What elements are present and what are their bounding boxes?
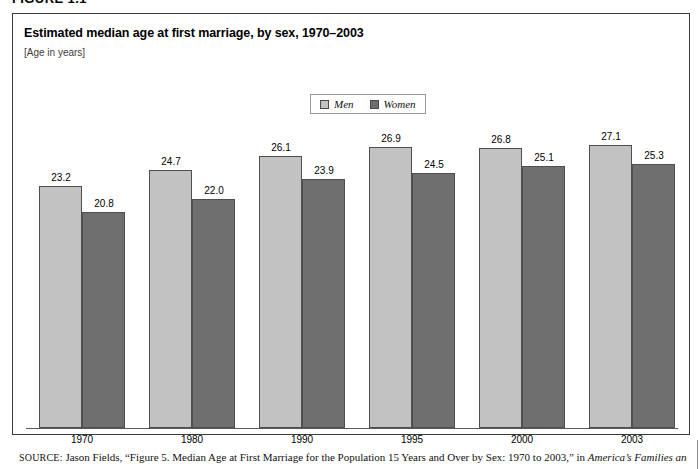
- legend-item-women: Women: [370, 98, 416, 110]
- bar-value-men-1970: 23.2: [38, 172, 84, 183]
- x-axis-label-2000: 2000: [479, 434, 565, 445]
- source-publication-title: America’s Families and: [588, 451, 687, 463]
- bar-value-women-2003: 25.3: [631, 150, 677, 161]
- bar-value-women-2000: 25.1: [521, 152, 567, 163]
- bar-value-women-1995: 24.5: [411, 159, 457, 170]
- legend-label-women: Women: [384, 98, 416, 110]
- x-axis-label-1995: 1995: [369, 434, 455, 445]
- chart-title: Estimated median age at first marriage, …: [24, 26, 364, 40]
- bar-value-men-2003: 27.1: [588, 131, 634, 142]
- bar-value-men-1990: 26.1: [258, 142, 304, 153]
- bar-group-1995: 26.924.5: [369, 114, 455, 428]
- source-note: SOURCE: Jason Fields, “Figure 5. Median …: [19, 451, 687, 464]
- legend-swatch-women: [370, 100, 379, 109]
- bar-men-1995[interactable]: [369, 147, 412, 428]
- chart-subtitle: [Age in years]: [24, 47, 85, 58]
- bar-value-women-1970: 20.8: [81, 198, 127, 209]
- bar-women-1970[interactable]: [82, 212, 125, 428]
- bar-women-1995[interactable]: [412, 173, 455, 428]
- bar-value-women-1980: 22.0: [191, 185, 237, 196]
- legend-swatch-men: [320, 100, 329, 109]
- bar-women-2000[interactable]: [522, 166, 565, 428]
- bar-group-2000: 26.825.1: [479, 114, 565, 428]
- bar-men-2000[interactable]: [479, 148, 522, 428]
- x-axis-label-1980: 1980: [149, 434, 235, 445]
- bar-group-1990: 26.123.9: [259, 114, 345, 428]
- legend-item-men: Men: [320, 98, 354, 110]
- bar-value-men-1980: 24.7: [148, 156, 194, 167]
- source-body: Jason Fields, “Figure 5. Median Age at F…: [63, 451, 588, 463]
- plot-area: 23.220.824.722.026.123.926.924.526.825.1…: [26, 114, 678, 429]
- figure-box: Estimated median age at first marriage, …: [12, 13, 690, 435]
- source-prefix: SOURCE:: [19, 452, 63, 463]
- x-axis-label-2003: 2003: [589, 434, 675, 445]
- page-edge-rule: [697, 440, 698, 469]
- bar-women-1980[interactable]: [192, 199, 235, 428]
- bar-women-1990[interactable]: [302, 179, 345, 428]
- figure-number-label: FIGURE 1.1: [12, 0, 87, 5]
- x-axis-label-1970: 1970: [39, 434, 125, 445]
- bar-value-men-2000: 26.8: [478, 134, 524, 145]
- legend-label-men: Men: [334, 98, 354, 110]
- bar-men-1980[interactable]: [149, 170, 192, 428]
- bar-men-1990[interactable]: [259, 156, 302, 428]
- bar-group-1980: 24.722.0: [149, 114, 235, 428]
- bar-value-women-1990: 23.9: [301, 165, 347, 176]
- bar-group-1970: 23.220.8: [39, 114, 125, 428]
- bar-value-men-1995: 26.9: [368, 133, 414, 144]
- bar-group-2003: 27.125.3: [589, 114, 675, 428]
- x-axis-label-1990: 1990: [259, 434, 345, 445]
- chart-legend: Men Women: [310, 94, 426, 114]
- bar-men-2003[interactable]: [589, 145, 632, 428]
- x-axis-line: [26, 428, 678, 429]
- bar-women-2003[interactable]: [632, 164, 675, 428]
- bar-men-1970[interactable]: [39, 186, 82, 428]
